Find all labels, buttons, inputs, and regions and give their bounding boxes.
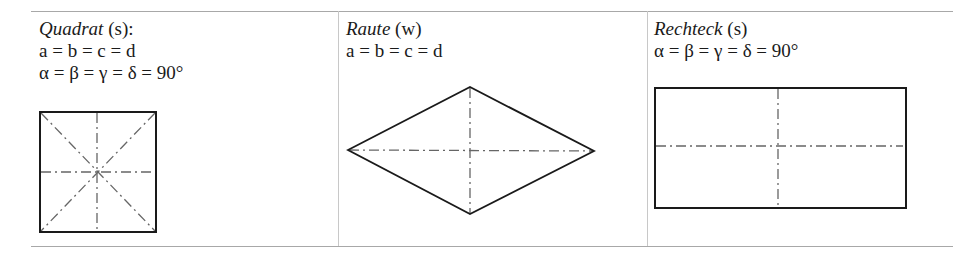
shape-figures <box>0 0 976 259</box>
rectangle-figure <box>655 88 906 209</box>
rhombus-figure <box>348 87 594 214</box>
square-figure <box>40 112 156 232</box>
